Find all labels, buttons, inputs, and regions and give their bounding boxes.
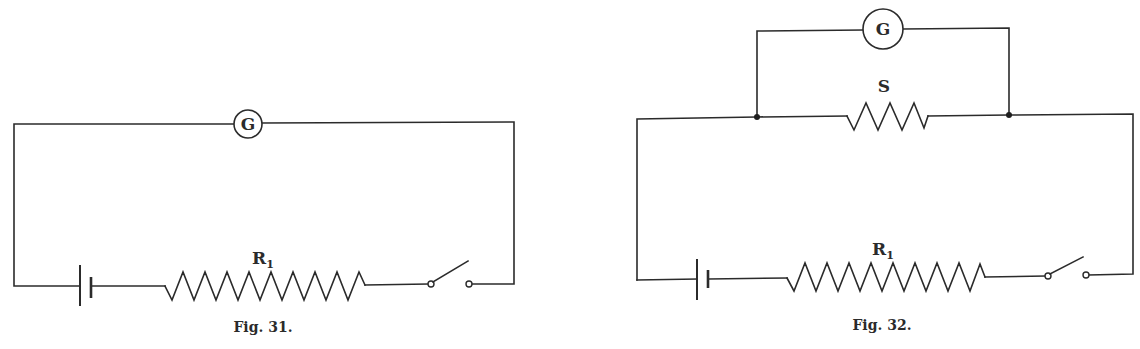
shunt-s-icon [847, 103, 928, 130]
resistor-r1-label: R1 [872, 239, 894, 262]
figure-caption: Fig. 31. [233, 319, 292, 335]
battery-icon [697, 259, 708, 300]
wire-resistor-to-switch [365, 284, 428, 285]
switch-icon [1045, 257, 1089, 279]
battery-icon [80, 265, 91, 306]
wire-main-top-right [928, 114, 1133, 275]
galvanometer-label: G [241, 114, 256, 134]
wire-top-right [262, 122, 514, 284]
switch-icon [428, 261, 472, 287]
shunt-s-label: S [878, 76, 890, 96]
galvanometer: G [863, 9, 903, 49]
wire-top-left [14, 124, 234, 286]
wire-left-to-battery [637, 279, 697, 280]
wire-galvanometer-branch-left [757, 30, 863, 117]
figure-caption: Fig. 32. [852, 317, 911, 333]
figure-32: G S R1 Fig. 32. [637, 9, 1133, 333]
junction-left [754, 114, 760, 120]
wire-resistor-to-switch [985, 276, 1045, 277]
resistor-r1-icon [787, 263, 985, 291]
resistor-r1-icon [165, 272, 365, 300]
wire-galvanometer-branch-right [903, 28, 1009, 115]
figure-31: G R1 Fig. 31. [14, 110, 514, 335]
resistor-r1-label: R1 [252, 248, 274, 271]
galvanometer-label: G [876, 19, 891, 39]
wire-main-top-left [637, 116, 847, 280]
galvanometer: G [234, 110, 262, 138]
circuit-diagrams: G R1 Fig. 31. G S [0, 0, 1140, 349]
wire-battery-to-resistor [709, 278, 787, 279]
junction-right [1006, 112, 1012, 118]
